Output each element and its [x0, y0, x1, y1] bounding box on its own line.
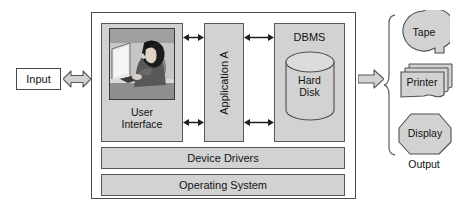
hard-disk-label: Hard Disk	[285, 74, 335, 98]
dbms-label: DBMS	[294, 31, 326, 43]
ui-label-line2: Interface	[122, 118, 163, 130]
application-label: Application A	[218, 51, 230, 115]
input-label: Input	[26, 73, 50, 85]
hard-disk-label-line1: Hard	[285, 74, 335, 86]
hard-disk-cylinder-icon: Hard Disk	[285, 51, 335, 121]
input-box: Input	[16, 68, 61, 90]
connector-ui-app-bottom	[183, 118, 204, 127]
connector-app-dbms-top	[244, 33, 274, 42]
user-interface-box: User Interface	[101, 23, 183, 142]
user-interface-label: User Interface	[122, 106, 163, 130]
connector-ui-app-top	[183, 33, 204, 42]
ui-label-line1: User	[122, 106, 163, 118]
tape-label: Tape	[398, 26, 450, 38]
system-container: User Interface Application A DBMS Hard D…	[91, 12, 356, 199]
output-group: Tape Printer Display Output	[384, 8, 463, 168]
output-label: Output	[394, 158, 454, 170]
input-double-arrow-icon	[63, 68, 91, 90]
hard-disk-label-line2: Disk	[285, 86, 335, 98]
device-drivers-label: Device Drivers	[187, 152, 259, 164]
application-box: Application A	[204, 23, 244, 142]
output-device-tape: Tape	[398, 10, 450, 56]
device-drivers-bar: Device Drivers	[101, 147, 345, 169]
output-device-display: Display	[397, 112, 453, 156]
operating-system-bar: Operating System	[101, 174, 345, 196]
connector-app-dbms-bottom	[244, 118, 274, 127]
dbms-box: DBMS Hard Disk	[274, 23, 345, 142]
output-device-printer: Printer	[395, 63, 455, 103]
printer-label: Printer	[392, 76, 452, 88]
diagram-canvas: Input	[0, 0, 463, 216]
display-label: Display	[397, 127, 453, 139]
output-right-arrow-icon	[358, 68, 384, 90]
user-photo	[109, 28, 175, 100]
operating-system-label: Operating System	[179, 179, 267, 191]
